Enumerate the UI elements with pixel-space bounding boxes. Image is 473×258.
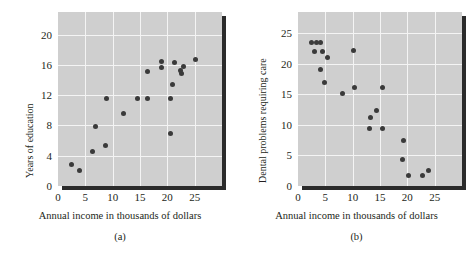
gridline-vertical bbox=[85, 12, 86, 186]
gridline-horizontal bbox=[298, 94, 462, 95]
data-point bbox=[168, 131, 173, 136]
y-tick-label: 10 bbox=[281, 119, 292, 130]
gridline-horizontal bbox=[298, 155, 462, 156]
chart-a-y-tick-labels: 048121620 bbox=[26, 12, 52, 186]
data-point bbox=[325, 55, 330, 60]
x-tick-label: 0 bbox=[295, 192, 301, 203]
gridline-vertical bbox=[325, 12, 326, 186]
y-tick-label: 8 bbox=[47, 120, 53, 131]
x-tick-label: 25 bbox=[189, 192, 200, 203]
y-tick-label: 16 bbox=[41, 59, 52, 70]
data-point bbox=[312, 49, 317, 54]
data-point bbox=[104, 96, 109, 101]
chart-a-plot-area bbox=[58, 12, 222, 186]
data-point bbox=[193, 57, 198, 62]
data-point bbox=[320, 49, 325, 54]
data-point bbox=[170, 82, 175, 87]
x-tick-label: 10 bbox=[347, 192, 358, 203]
data-point bbox=[159, 65, 164, 70]
gridline-vertical bbox=[195, 12, 196, 186]
data-point bbox=[103, 143, 108, 148]
y-tick-label: 25 bbox=[281, 28, 292, 39]
gridline-vertical bbox=[353, 12, 354, 186]
data-point bbox=[90, 149, 95, 154]
gridline-vertical bbox=[113, 12, 114, 186]
x-tick-label: 5 bbox=[323, 192, 329, 203]
data-point bbox=[121, 111, 126, 116]
data-point bbox=[340, 91, 345, 96]
gridline-horizontal bbox=[298, 33, 462, 34]
x-tick-label: 15 bbox=[375, 192, 386, 203]
x-tick-label: 20 bbox=[402, 192, 413, 203]
gridline-horizontal bbox=[58, 95, 222, 96]
chart-panel-b: Dental problems requiring care 051015202… bbox=[240, 0, 473, 258]
gridline-vertical bbox=[435, 12, 436, 186]
y-tick-label: 5 bbox=[287, 150, 293, 161]
data-point bbox=[318, 67, 323, 72]
x-tick-label: 15 bbox=[135, 192, 146, 203]
data-point bbox=[401, 138, 406, 143]
chart-b-x-axis-label: Annual income in thousands of dollars bbox=[240, 210, 473, 221]
x-tick-label: 20 bbox=[162, 192, 173, 203]
data-point bbox=[380, 126, 385, 131]
x-tick-label: 5 bbox=[83, 192, 89, 203]
chart-b-caption: (b) bbox=[240, 231, 473, 242]
gridline-vertical bbox=[407, 12, 408, 186]
data-point bbox=[93, 124, 98, 129]
gridline-horizontal bbox=[58, 156, 222, 157]
data-point bbox=[351, 48, 356, 53]
y-tick-label: 4 bbox=[47, 150, 53, 161]
data-point bbox=[322, 80, 327, 85]
x-tick-label: 0 bbox=[55, 192, 61, 203]
data-point bbox=[420, 173, 425, 178]
y-tick-label: 0 bbox=[47, 181, 53, 192]
data-point bbox=[77, 168, 82, 173]
chart-a-x-axis-label: Annual income in thousands of dollars bbox=[0, 210, 240, 221]
y-tick-label: 15 bbox=[281, 89, 292, 100]
data-point bbox=[368, 115, 373, 120]
data-point bbox=[69, 162, 74, 167]
data-point bbox=[168, 96, 173, 101]
y-tick-label: 0 bbox=[287, 181, 293, 192]
data-point bbox=[400, 157, 405, 162]
data-point bbox=[380, 85, 385, 90]
chart-b-y-tick-labels: 0510152025 bbox=[266, 12, 292, 186]
x-tick-label: 10 bbox=[107, 192, 118, 203]
data-point bbox=[318, 40, 323, 45]
data-point bbox=[179, 71, 184, 76]
data-point bbox=[159, 59, 164, 64]
data-point bbox=[374, 108, 379, 113]
gridline-horizontal bbox=[58, 65, 222, 66]
y-tick-label: 20 bbox=[281, 58, 292, 69]
y-tick-label: 12 bbox=[41, 90, 52, 101]
chart-panel-a: Years of education 048121620 0510152025 … bbox=[0, 0, 240, 258]
gridline-horizontal bbox=[58, 125, 222, 126]
data-point bbox=[367, 126, 372, 131]
gridline-vertical bbox=[380, 12, 381, 186]
gridline-horizontal bbox=[58, 35, 222, 36]
x-tick-label: 25 bbox=[429, 192, 440, 203]
data-point bbox=[145, 69, 150, 74]
y-tick-label: 20 bbox=[41, 29, 52, 40]
gridline-vertical bbox=[140, 12, 141, 186]
chart-a-caption: (a) bbox=[0, 231, 240, 242]
data-point bbox=[352, 85, 357, 90]
data-point bbox=[426, 168, 431, 173]
data-point bbox=[181, 64, 186, 69]
figure-container: Years of education 048121620 0510152025 … bbox=[0, 0, 473, 258]
gridline-horizontal bbox=[298, 64, 462, 65]
data-point bbox=[406, 173, 411, 178]
chart-b-plot-area bbox=[298, 12, 462, 186]
data-point bbox=[145, 96, 150, 101]
